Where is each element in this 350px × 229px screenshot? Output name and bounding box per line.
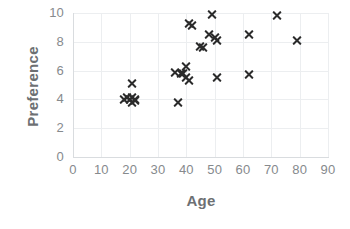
data-point-marker (127, 92, 138, 103)
y-axis-line (73, 13, 74, 158)
gridline-vertical (158, 13, 159, 157)
data-point-marker (184, 18, 195, 29)
gridline-vertical (130, 13, 131, 157)
gridline-horizontal (73, 99, 328, 100)
x-tick-label: 60 (230, 162, 256, 177)
plot-area (73, 13, 328, 157)
data-point-marker (187, 20, 198, 31)
x-tick-label: 70 (258, 162, 284, 177)
x-tick-label: 10 (88, 162, 114, 177)
x-tick-label: 40 (173, 162, 199, 177)
x-tick-label: 80 (287, 162, 313, 177)
x-axis-line (73, 157, 329, 158)
gridline-horizontal (73, 13, 328, 14)
x-tick-label: 20 (117, 162, 143, 177)
data-point-marker (121, 92, 132, 103)
gridline-horizontal (73, 71, 328, 72)
gridline-vertical (271, 13, 272, 157)
x-tick-label: 90 (315, 162, 341, 177)
data-point-marker (204, 29, 215, 40)
data-point-marker (291, 35, 302, 46)
gridline-vertical (101, 13, 102, 157)
gridline-horizontal (73, 42, 328, 43)
y-axis-title: Preference (24, 17, 41, 157)
data-point-marker (212, 72, 223, 83)
data-point-marker (243, 29, 254, 40)
data-point-marker (184, 75, 195, 86)
x-tick-label: 30 (145, 162, 171, 177)
data-point-marker (212, 35, 223, 46)
gridline-vertical (215, 13, 216, 157)
x-tick-label: 0 (60, 162, 86, 177)
data-point-marker (170, 67, 181, 78)
scatter-chart: 0102030405060708090 0246810 Age Preferen… (0, 0, 350, 229)
gridline-vertical (186, 13, 187, 157)
gridline-horizontal (73, 128, 328, 129)
data-point-marker (130, 95, 141, 106)
gridline-vertical (300, 13, 301, 157)
data-point-marker (198, 42, 209, 53)
x-tick-label: 50 (202, 162, 228, 177)
data-point-marker (127, 78, 138, 89)
gridline-vertical (328, 13, 329, 157)
data-point-marker (206, 9, 217, 20)
x-axis-title: Age (73, 192, 329, 209)
gridline-vertical (243, 13, 244, 157)
